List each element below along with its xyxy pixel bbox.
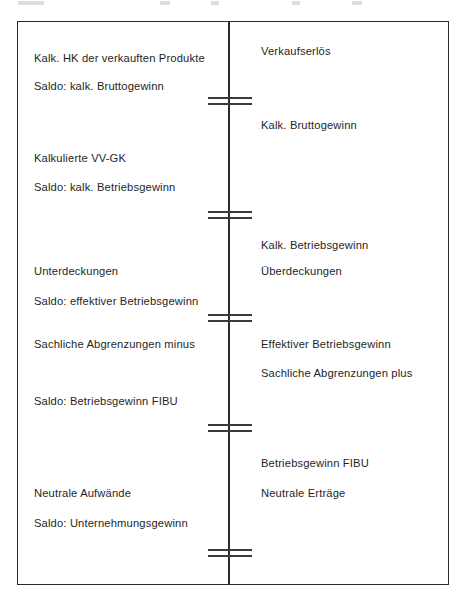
center-vertical-divider [228,21,230,585]
scan-artifact-strip [0,0,467,8]
entry-sachliche-abgrenzungen-minus: Sachliche Abgrenzungen minus [34,338,195,351]
entry-neutrale-aufwaende: Neutrale Aufwände [34,487,131,500]
entry-sachliche-abgrenzungen-plus: Sachliche Abgrenzungen plus [261,367,412,380]
entry-verkaufserloes: Verkaufserlös [261,45,331,58]
entry-unterdeckungen: Unterdeckungen [34,265,118,278]
entry-saldo-kalk-betriebsgewinn: Saldo: kalk. Betriebsgewinn [34,181,176,194]
balance-rule-1 [208,97,252,105]
entry-saldo-unternehmungsgewinn: Saldo: Unternehmungsgewinn [34,517,188,530]
entry-saldo-effektiver-betriebsgewinn: Saldo: effektiver Betriebsgewinn [34,295,198,308]
entry-kalkulierte-vv-gk: Kalkulierte VV-GK [34,152,126,165]
entry-kalk-betriebsgewinn: Kalk. Betriebsgewinn [261,239,368,252]
entry-neutrale-ertraege: Neutrale Erträge [261,487,345,500]
entry-saldo-kalk-bruttogewinn: Saldo: kalk. Bruttogewinn [34,80,164,93]
entry-effektiver-betriebsgewinn: Effektiver Betriebsgewinn [261,338,391,351]
entry-saldo-betriebsgewinn-fibu: Saldo: Betriebsgewinn FIBU [34,395,178,408]
balance-rule-4 [208,424,252,432]
entry-kalk-hk-verkaufte-produkte: Kalk. HK der verkauften Produkte [34,52,205,65]
entry-kalk-bruttogewinn: Kalk. Bruttogewinn [261,119,357,132]
balance-rule-5 [208,549,252,557]
entry-ueberdeckungen: Überdeckungen [261,265,342,278]
figure-page: Kalk. HK der verkauften Produkte Saldo: … [0,0,467,609]
balance-rule-2 [208,211,252,219]
entry-betriebsgewinn-fibu: Betriebsgewinn FIBU [261,457,369,470]
balance-rule-3 [208,314,252,322]
